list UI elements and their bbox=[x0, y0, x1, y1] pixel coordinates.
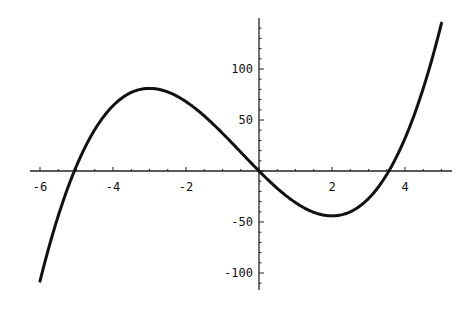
function-plot: -6-4-22410050-50-100 bbox=[0, 0, 473, 313]
x-tick-label: 2 bbox=[328, 180, 335, 194]
x-tick-label: -4 bbox=[106, 180, 120, 194]
x-tick-label: -6 bbox=[33, 180, 47, 194]
x-tick-label: 4 bbox=[401, 180, 408, 194]
x-tick-label: -2 bbox=[179, 180, 193, 194]
y-tick-label: 100 bbox=[231, 62, 253, 76]
y-tick-label: 50 bbox=[239, 113, 253, 127]
y-tick-label: -50 bbox=[231, 215, 253, 229]
y-tick-label: -100 bbox=[224, 266, 253, 280]
